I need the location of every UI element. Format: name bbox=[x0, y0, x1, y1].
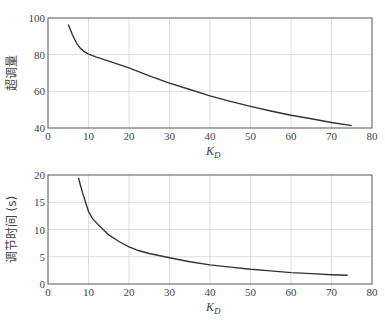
overshoot-plot: 01020304050607080406080100KD超调量 bbox=[4, 12, 378, 160]
x-tick-label: 60 bbox=[286, 286, 298, 298]
x-tick-label: 50 bbox=[245, 130, 257, 142]
y-tick-label: 20 bbox=[34, 169, 46, 181]
x-tick-label: 10 bbox=[83, 286, 95, 298]
y-tick-label: 60 bbox=[34, 85, 46, 97]
y-axis-label: 超调量 bbox=[4, 55, 19, 91]
y-tick-label: 100 bbox=[29, 12, 46, 24]
x-tick-label: 0 bbox=[45, 130, 51, 142]
x-axis-label: KD bbox=[205, 144, 221, 160]
y-axis-label: 调节时间 (s) bbox=[5, 196, 19, 263]
x-tick-label: 60 bbox=[286, 130, 298, 142]
x-tick-label: 70 bbox=[326, 286, 338, 298]
x-tick-label: 30 bbox=[164, 286, 176, 298]
y-tick-label: 10 bbox=[34, 224, 46, 236]
x-tick-label: 20 bbox=[124, 286, 136, 298]
x-tick-label: 80 bbox=[367, 286, 379, 298]
settling-time-curve bbox=[78, 178, 347, 276]
x-axis-label: KD bbox=[205, 300, 221, 316]
y-tick-label: 0 bbox=[40, 278, 46, 290]
y-tick-label: 40 bbox=[34, 122, 46, 134]
x-tick-label: 30 bbox=[164, 130, 176, 142]
settling-time-plot: 0102030405060708005101520KD调节时间 (s) bbox=[5, 169, 378, 316]
x-tick-label: 20 bbox=[124, 130, 136, 142]
y-tick-label: 80 bbox=[34, 49, 46, 61]
x-tick-label: 80 bbox=[367, 130, 379, 142]
y-tick-label: 15 bbox=[34, 196, 46, 208]
y-tick-label: 5 bbox=[40, 251, 46, 263]
x-tick-label: 40 bbox=[205, 286, 217, 298]
x-tick-label: 0 bbox=[45, 286, 51, 298]
x-tick-label: 70 bbox=[326, 130, 338, 142]
x-tick-label: 40 bbox=[205, 130, 217, 142]
x-tick-label: 50 bbox=[245, 286, 257, 298]
chart-figure: 01020304050607080406080100KD超调量 01020304… bbox=[0, 0, 385, 324]
x-tick-label: 10 bbox=[83, 130, 95, 142]
